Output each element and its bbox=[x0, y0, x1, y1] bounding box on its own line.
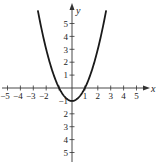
y-tick-label: 2 bbox=[64, 109, 69, 119]
parabola-graph: x y −5−4−3−21234554321−12345 bbox=[0, 0, 158, 164]
y-tick-label: 2 bbox=[64, 57, 69, 67]
x-tick-label: 2 bbox=[96, 91, 101, 101]
x-axis-label: x bbox=[150, 83, 156, 94]
y-axis-arrow-icon bbox=[70, 3, 75, 10]
x-tick-label: −3 bbox=[26, 91, 36, 101]
y-axis-label: y bbox=[75, 5, 81, 16]
x-tick-label: −2 bbox=[39, 91, 49, 101]
x-axis-arrow-icon bbox=[143, 86, 150, 91]
x-tick-label: 4 bbox=[121, 91, 126, 101]
y-tick-label: 4 bbox=[64, 135, 69, 145]
y-tick-label: 4 bbox=[64, 32, 69, 42]
x-tick-label: −5 bbox=[0, 91, 10, 101]
y-tick-label: 5 bbox=[64, 148, 69, 158]
y-tick-label: 5 bbox=[64, 19, 69, 29]
x-tick-label: 3 bbox=[108, 91, 113, 101]
y-tick-label: 3 bbox=[64, 45, 69, 55]
y-tick-label: 3 bbox=[64, 122, 69, 132]
x-tick-label: 5 bbox=[134, 91, 139, 101]
y-tick-label: 1 bbox=[64, 70, 69, 80]
y-axis: y bbox=[70, 3, 82, 162]
x-tick-label: −4 bbox=[13, 91, 23, 101]
